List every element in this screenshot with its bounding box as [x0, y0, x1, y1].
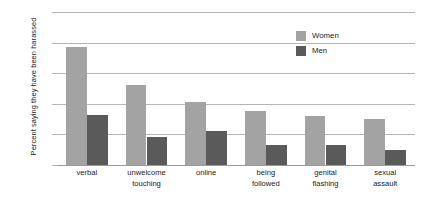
- legend-label: Men: [312, 46, 327, 55]
- bar-women: [245, 111, 266, 165]
- x-axis-labels: verbalunwelcometouchingonlinebeingfollow…: [57, 168, 415, 201]
- legend-item: Women: [296, 28, 339, 43]
- x-axis-label: genitalflashing: [296, 168, 356, 189]
- bar-group: [126, 12, 168, 165]
- y-tick-mark: [52, 43, 57, 44]
- x-axis-label: unwelcometouching: [117, 168, 177, 189]
- bar-group: [364, 12, 406, 165]
- x-axis-label: verbal: [57, 168, 117, 179]
- legend-item: Men: [296, 43, 339, 58]
- bar-men: [326, 145, 347, 165]
- gridline: [57, 165, 415, 166]
- bar-group: [185, 12, 227, 165]
- bar-men: [147, 137, 168, 165]
- legend-swatch-icon: [296, 31, 306, 41]
- y-tick-mark: [52, 104, 57, 105]
- y-tick-mark: [52, 134, 57, 135]
- x-axis-label: sexualassault: [355, 168, 415, 189]
- bar-men: [266, 145, 287, 165]
- bar-men: [206, 131, 227, 165]
- legend-swatch-icon: [296, 46, 306, 56]
- bar-women: [364, 119, 385, 165]
- plot-area: [57, 12, 415, 165]
- y-tick-mark: [52, 73, 57, 74]
- chart-legend: WomenMen: [296, 28, 339, 58]
- bar-women: [66, 47, 87, 165]
- y-tick-mark: [52, 165, 57, 166]
- bar-women: [305, 116, 326, 165]
- y-axis-title: Percent saying they have been harassed: [29, 7, 38, 167]
- bar-chart: Percent saying they have been harassed 1…: [0, 0, 428, 201]
- x-axis-label: beingfollowed: [236, 168, 296, 189]
- legend-label: Women: [312, 31, 339, 40]
- bar-women: [185, 102, 206, 165]
- bar-men: [385, 150, 406, 165]
- y-tick-mark: [52, 12, 57, 13]
- x-axis-label: online: [176, 168, 236, 179]
- bars-layer: [57, 12, 415, 165]
- bar-group: [66, 12, 108, 165]
- bar-men: [87, 115, 108, 165]
- bar-group: [245, 12, 287, 165]
- bar-women: [126, 85, 147, 165]
